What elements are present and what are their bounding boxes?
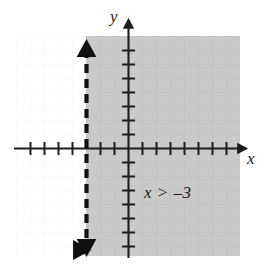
coordinate-plane xyxy=(0,0,268,270)
x-axis-label: x xyxy=(247,150,255,167)
inequality-annotation: x > –3 xyxy=(144,183,192,203)
graph-figure: y x x > –3 xyxy=(0,0,268,270)
y-axis-label: y xyxy=(110,8,118,25)
grid-lines-shaded xyxy=(86,36,240,256)
